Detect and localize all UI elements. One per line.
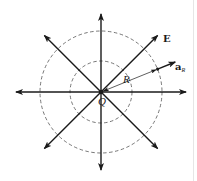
field-line-down-left xyxy=(44,92,101,149)
charge-label-Q: Q xyxy=(98,96,106,107)
distance-label-R: R xyxy=(123,74,130,85)
field-line-down-right xyxy=(101,92,158,149)
field-line-up-left xyxy=(44,35,101,92)
field-label-E: E xyxy=(163,34,171,44)
unit-vector-arrow xyxy=(158,62,176,69)
unit-vector-label: aR xyxy=(175,62,185,73)
field-diagram xyxy=(0,0,197,181)
unit-vector-label-subscript: R xyxy=(181,67,185,73)
charge-dot xyxy=(99,90,103,94)
